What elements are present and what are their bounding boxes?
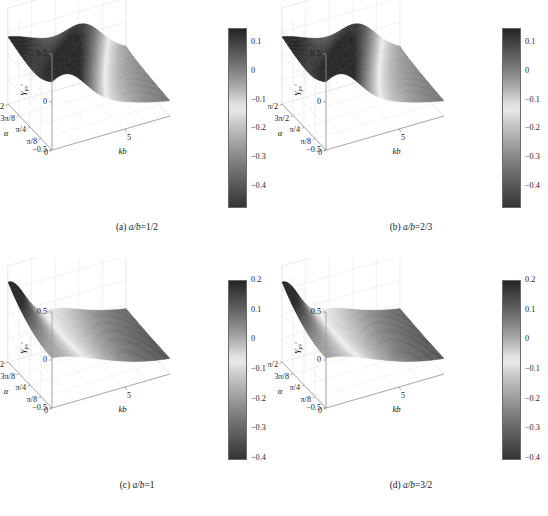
colorbar-tick-a-3: −0.2	[251, 124, 266, 132]
colorbar-tick-c-5: −0.3	[251, 424, 266, 432]
alpha-tick-d-2: π/4	[289, 384, 300, 392]
colorbar-tick-b-5: −0.4	[525, 182, 540, 190]
caption-value-a: =1/2	[141, 222, 158, 232]
panel-caption-a: (a) a/b=1/2	[0, 222, 274, 232]
colorbar-tick-a-2: −0.1	[251, 96, 266, 104]
z-tick-c-1: 0	[43, 356, 47, 364]
alpha-tick-a-4: 0	[44, 149, 48, 157]
colorbar-gradient-c	[228, 280, 247, 460]
colorbar-tick-d-6: −0.4	[525, 454, 540, 462]
z-tick-b-1: 0	[317, 98, 321, 106]
colorbar-tick-a-5: −0.4	[251, 182, 266, 190]
z-axis-label-sub-a: pv	[23, 86, 29, 91]
x-axis-label-c: kb	[118, 405, 126, 414]
kb-tick-c-0: 5	[127, 392, 131, 400]
z-axis-label-sub-c: pv	[23, 344, 29, 349]
surface-plot-c: 0.50−0.5π/23π/8π/4π/805kbαYpv′	[0, 258, 215, 473]
alpha-tick-d-0: π/2	[267, 361, 278, 369]
colorbar-tick-c-6: −0.4	[251, 454, 266, 462]
colorbar-tick-b-1: 0	[525, 67, 529, 75]
alpha-tick-a-2: π/4	[15, 126, 26, 134]
panel-a: 0.50−0.5π/23π/8π/4π/805kbαYpv′0.10−0.1−0…	[0, 0, 274, 258]
caption-value-c: =1	[144, 480, 154, 490]
colorbar-tick-a-4: −0.3	[251, 153, 266, 161]
z-axis-label-base-a: Y	[19, 92, 29, 97]
kb-tick-b-0: 5	[401, 134, 405, 142]
colorbar-tick-b-2: −0.1	[525, 96, 540, 104]
caption-value-b: =2/3	[415, 222, 432, 232]
alpha-tick-c-1: 3π/8	[0, 372, 15, 380]
x-axis-label-a: kb	[118, 147, 126, 156]
colorbar-gradient-b	[502, 28, 521, 208]
colorbar-tick-d-3: −0.1	[525, 365, 540, 373]
colorbar-tick-d-2: 0	[525, 335, 529, 343]
alpha-tick-c-2: π/4	[15, 384, 26, 392]
kb-tick-a-0: 5	[127, 134, 131, 142]
y-axis-label-a: α	[4, 129, 9, 138]
x-axis-label-b: kb	[392, 147, 400, 156]
z-axis-label-c: Ypv′	[20, 343, 30, 355]
alpha-tick-d-4: 0	[318, 407, 322, 415]
colorbar-tick-c-1: 0.1	[251, 306, 261, 314]
panel-c: 0.50−0.5π/23π/8π/4π/805kbαYpv′0.20.10−0.…	[0, 258, 274, 516]
alpha-tick-c-3: π/8	[26, 395, 37, 403]
caption-tag-b: (b)	[390, 222, 401, 232]
z-tick-a-0: 0.5	[37, 50, 47, 58]
panel-b: 0.50−0.5π/23π/2π/4π/805kbαYpv′0.10−0.1−0…	[274, 0, 548, 258]
colorbar-tick-d-1: 0.1	[525, 306, 535, 314]
z-axis-label-base-d: Y	[293, 350, 303, 355]
colorbar-tick-d-0: 0.2	[525, 276, 535, 284]
alpha-tick-c-4: 0	[44, 407, 48, 415]
panel-caption-c: (c) a/b=1	[0, 480, 274, 490]
figure-root: 0.50−0.5π/23π/8π/4π/805kbαYpv′0.10−0.1−0…	[0, 0, 548, 516]
y-axis-label-b: α	[278, 129, 283, 138]
colorbar-tick-c-0: 0.2	[251, 276, 261, 284]
colorbar-tick-c-3: −0.1	[251, 365, 266, 373]
colorbar-tick-a-1: 0	[251, 67, 255, 75]
caption-expr-d: a/b	[403, 480, 415, 490]
alpha-tick-d-3: π/8	[300, 395, 311, 403]
z-axis-label-sub-d: pv	[297, 344, 303, 349]
surface-plot-b: 0.50−0.5π/23π/2π/4π/805kbαYpv′	[274, 0, 489, 215]
colorbar-tick-b-0: 0.1	[525, 38, 535, 46]
caption-tag-c: (c)	[120, 480, 130, 490]
panel-d: 0.50−0.5π/23π/8π/4π/805kbαYpv′0.20.10−0.…	[274, 258, 548, 516]
alpha-tick-b-3: π/8	[300, 137, 311, 145]
colorbar-tick-b-3: −0.2	[525, 124, 540, 132]
z-tick-d-0: 0.5	[311, 308, 321, 316]
alpha-tick-b-4: 0	[318, 149, 322, 157]
panel-caption-b: (b) a/b=2/3	[274, 222, 548, 232]
z-axis-label-a: Ypv′	[20, 85, 30, 97]
colorbar-gradient-a	[228, 28, 247, 208]
alpha-tick-a-0: π/2	[0, 103, 4, 111]
caption-expr-a: a/b	[129, 222, 141, 232]
alpha-tick-b-0: π/2	[267, 103, 278, 111]
alpha-tick-d-1: 3π/8	[274, 372, 289, 380]
z-tick-c-0: 0.5	[37, 308, 47, 316]
caption-expr-c: a/b	[132, 480, 144, 490]
colorbar-gradient-d	[502, 280, 521, 460]
kb-tick-d-0: 5	[401, 392, 405, 400]
colorbar-tick-c-4: −0.2	[251, 395, 266, 403]
alpha-tick-b-2: π/4	[289, 126, 300, 134]
alpha-tick-b-1: 3π/2	[274, 114, 289, 122]
alpha-tick-c-0: π/2	[0, 361, 4, 369]
caption-value-d: =3/2	[415, 480, 432, 490]
alpha-tick-a-3: π/8	[26, 137, 37, 145]
colorbar-tick-a-0: 0.1	[251, 38, 261, 46]
colorbar-tick-d-5: −0.3	[525, 424, 540, 432]
x-axis-label-d: kb	[392, 405, 400, 414]
y-axis-label-d: α	[278, 387, 283, 396]
alpha-tick-a-1: 3π/8	[0, 114, 15, 122]
z-axis-label-sub-b: pv	[297, 86, 303, 91]
z-axis-label-base-c: Y	[19, 350, 29, 355]
z-axis-label-base-b: Y	[293, 92, 303, 97]
z-tick-d-1: 0	[317, 356, 321, 364]
panel-caption-d: (d) a/b=3/2	[274, 480, 548, 490]
z-axis-label-d: Ypv′	[294, 343, 304, 355]
colorbar-tick-c-2: 0	[251, 335, 255, 343]
z-axis-label-b: Ypv′	[294, 85, 304, 97]
caption-expr-b: a/b	[403, 222, 415, 232]
z-tick-a-1: 0	[43, 98, 47, 106]
surface-plot-a: 0.50−0.5π/23π/8π/4π/805kbαYpv′	[0, 0, 215, 215]
